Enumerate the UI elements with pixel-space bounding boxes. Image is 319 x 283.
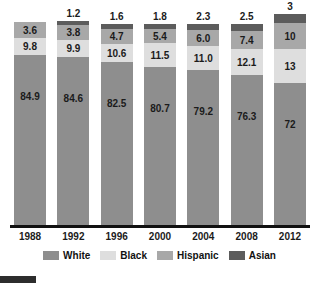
bar-segment-asian[interactable] [274, 14, 306, 23]
bar-segment-white[interactable]: 82.5 [101, 62, 133, 225]
bar-segment-value-label: 10 [284, 31, 295, 42]
bar-segment-value-label: 3.8 [66, 27, 80, 38]
bar-segment-hispanic[interactable]: 3.8 [57, 25, 89, 40]
legend-label: Black [120, 250, 147, 261]
bar-segment-hispanic[interactable]: 4.7 [101, 29, 133, 44]
legend-swatch-icon [100, 251, 116, 260]
bar-segment-value-label: 72 [284, 119, 295, 130]
bar-segment-value-label: 84.6 [64, 93, 83, 104]
legend-item-asian[interactable]: Asian [229, 250, 276, 261]
stacked-bar-chart: 3.69.884.91.23.89.984.61.64.710.682.51.8… [0, 0, 319, 283]
x-axis-tick-2004: 2004 [187, 231, 219, 243]
bar-segment-black[interactable]: 12.1 [231, 49, 263, 75]
x-axis-tick-1996: 1996 [101, 231, 133, 243]
bar-segment-value-label: 11.5 [151, 50, 170, 61]
bar-segment-value-label: 4.7 [110, 31, 124, 42]
bar-segment-value-label: 76.3 [237, 111, 256, 122]
bar-segment-value-label: 7.4 [240, 35, 254, 46]
x-axis-tick-1992: 1992 [57, 231, 89, 243]
bar-segment-white[interactable]: 76.3 [231, 75, 263, 225]
bar-segment-value-label: 9.8 [23, 41, 37, 52]
asian-value-label-above-bar: 2.5 [225, 11, 269, 22]
x-axis-tick-1988: 1988 [14, 231, 46, 243]
bar-segment-black[interactable]: 9.9 [57, 40, 89, 57]
legend-item-black[interactable]: Black [100, 250, 147, 261]
bar-segment-hispanic[interactable]: 7.4 [231, 31, 263, 49]
bar-segment-value-label: 84.9 [20, 91, 39, 102]
bar-group[interactable]: 1.85.411.580.7 [144, 6, 176, 225]
bar-segment-value-label: 10.6 [107, 48, 126, 59]
legend-swatch-icon [43, 251, 59, 260]
bar-group[interactable]: 3.69.884.9 [14, 6, 46, 225]
bar-segment-hispanic[interactable]: 6.0 [187, 30, 219, 46]
asian-value-label-above-bar: 1.2 [51, 8, 95, 19]
x-axis-tick-labels: 1988199219962000200420082012 [14, 231, 306, 243]
plot-area: 3.69.884.91.23.89.984.61.64.710.682.51.8… [14, 6, 306, 225]
legend-item-hispanic[interactable]: Hispanic [157, 250, 219, 261]
bar-segment-black[interactable]: 11.5 [144, 43, 176, 67]
bar-segment-black[interactable]: 10.6 [101, 44, 133, 62]
bar-segment-value-label: 12.1 [237, 57, 256, 68]
bar-group[interactable]: 2.36.011.079.2 [187, 6, 219, 225]
bar-segment-hispanic[interactable]: 10 [274, 23, 306, 49]
bar-segment-white[interactable]: 80.7 [144, 67, 176, 225]
bar-segment-value-label: 11.0 [194, 53, 213, 64]
bar-group[interactable]: 1.23.89.984.6 [57, 6, 89, 225]
chart-legend: WhiteBlackHispanicAsian [0, 250, 319, 261]
legend-swatch-icon [157, 251, 173, 260]
asian-value-label-above-bar: 3 [268, 1, 312, 12]
bar-segment-hispanic[interactable]: 3.6 [14, 22, 46, 38]
legend-label: Asian [249, 250, 276, 261]
legend-label: Hispanic [177, 250, 219, 261]
x-axis-tick-2012: 2012 [274, 231, 306, 243]
legend-swatch-icon [229, 251, 245, 260]
legend-item-white[interactable]: White [43, 250, 90, 261]
bar-group[interactable]: 2.57.412.176.3 [231, 6, 263, 225]
bar-group[interactable]: 1.64.710.682.5 [101, 6, 133, 225]
bar-segment-value-label: 6.0 [196, 33, 210, 44]
bar-segment-asian[interactable] [231, 24, 263, 31]
asian-value-label-above-bar: 1.8 [138, 11, 182, 22]
bar-segment-black[interactable]: 9.8 [14, 38, 46, 55]
bar-segment-value-label: 13 [284, 61, 295, 72]
x-axis-baseline [10, 225, 310, 228]
bar-group[interactable]: 3101372 [274, 6, 306, 225]
asian-value-label-above-bar: 2.3 [181, 11, 225, 22]
bar-segment-hispanic[interactable]: 5.4 [144, 29, 176, 43]
bar-segment-white[interactable]: 84.9 [14, 55, 46, 225]
bar-segment-value-label: 82.5 [107, 98, 126, 109]
legend-label: White [63, 250, 90, 261]
x-axis-tick-2008: 2008 [231, 231, 263, 243]
asian-value-label-above-bar: 1.6 [95, 11, 139, 22]
bar-segment-white[interactable]: 84.6 [57, 57, 89, 225]
bar-segment-black[interactable]: 11.0 [187, 46, 219, 70]
bar-segment-value-label: 5.4 [153, 31, 167, 42]
bar-segment-value-label: 80.7 [150, 103, 169, 114]
x-axis-tick-2000: 2000 [144, 231, 176, 243]
bar-segment-white[interactable]: 72 [274, 83, 306, 225]
bar-segment-value-label: 9.9 [66, 43, 80, 54]
bar-segment-white[interactable]: 79.2 [187, 70, 219, 225]
bar-segment-value-label: 79.2 [194, 106, 213, 117]
bottom-left-artifact [0, 276, 36, 283]
bar-segment-black[interactable]: 13 [274, 49, 306, 83]
bar-segment-value-label: 3.6 [23, 25, 37, 36]
